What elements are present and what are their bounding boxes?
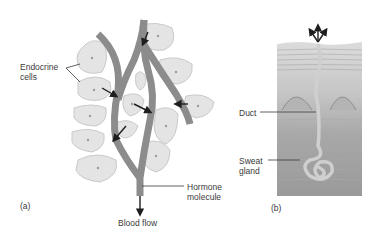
sweat-gland-label: Sweat gland <box>239 156 263 176</box>
panel-a-label: (a) <box>20 201 30 211</box>
endocrine-cells-label: Endocrine cells <box>20 62 58 82</box>
label-line: Hormone <box>187 182 222 192</box>
label-line: gland <box>239 166 263 176</box>
label-line: cells <box>20 72 58 82</box>
duct-label: Duct <box>239 108 256 118</box>
label-line: molecule <box>187 192 222 202</box>
blood-flow-label: Blood flow <box>118 218 157 228</box>
hormone-molecule-label: Hormone molecule <box>187 182 222 202</box>
skin-section <box>277 42 362 196</box>
label-line: Endocrine <box>20 62 58 72</box>
sweat-arrows <box>310 26 326 42</box>
label-line: Sweat <box>239 156 263 166</box>
panel-b-label: (b) <box>271 203 281 213</box>
